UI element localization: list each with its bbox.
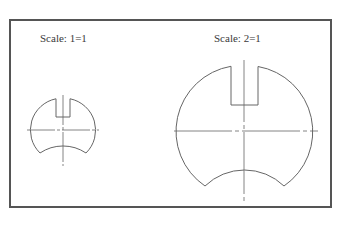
view-scale-2-1 [174, 60, 318, 202]
view-scale-1-1 [27, 95, 99, 166]
scale-label-1-1: Scale: 1=1 [40, 32, 87, 44]
drawing-frame [10, 20, 331, 207]
scale-label-2-1: Scale: 2=1 [214, 32, 261, 44]
